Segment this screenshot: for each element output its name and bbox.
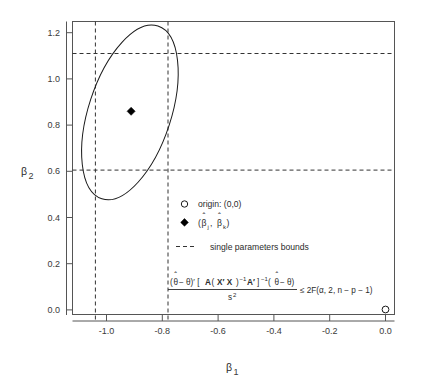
- x-axis-title: β 1: [226, 361, 239, 377]
- formula-denominator: s 2: [228, 292, 237, 303]
- legend-item-origin: origin: (0,0): [181, 199, 241, 209]
- plot-canvas: 0.0 0.2 0.4 0.6 0.8 1.0 1.2 β 2: [0, 0, 421, 387]
- y-tick-label: 1.2: [47, 28, 60, 38]
- legend-label-estimate-beta1: β: [202, 218, 207, 228]
- formula-num-part5: ]: [257, 278, 259, 287]
- formula-denominator-exponent: 2: [233, 292, 237, 298]
- estimate-point: [127, 107, 135, 115]
- x-tick-label: -0.2: [322, 326, 338, 336]
- y-axis: 0.0 0.2 0.4 0.6 0.8 1.0 1.2 β 2: [21, 22, 73, 316]
- y-tick-label: 0.4: [47, 213, 60, 223]
- formula-num-part3: (: [212, 278, 215, 287]
- formula-num-matrix-aprime: A′: [247, 278, 255, 287]
- legend-item-bounds: single parameters bounds: [176, 242, 309, 252]
- formula-num-theta1: θ: [174, 278, 179, 287]
- legend-item-estimate: ( ˆ β j , ˆ β k ): [181, 211, 230, 230]
- legend-label-origin: origin: (0,0): [198, 199, 242, 209]
- x-tick-label: -0.6: [210, 326, 226, 336]
- formula-num-part2: − θ)′ [: [179, 278, 200, 287]
- y-axis-title-subscript: 2: [28, 171, 33, 181]
- open-circle-icon: [181, 201, 187, 207]
- x-axis: -1.0 -0.8 -0.6 -0.4 -0.2 0.0 β 1: [73, 315, 395, 377]
- x-tick-label: -1.0: [99, 326, 115, 336]
- open-circle-marker: [382, 306, 389, 313]
- formula-num-matrix-xx: X′ X: [217, 278, 233, 287]
- y-tick-label: 0.6: [47, 166, 60, 176]
- formula-rhs: ≤ 2F(α, 2, n − p − 1): [300, 286, 373, 295]
- formula-num-part7: − θ): [280, 278, 295, 287]
- y-tick-label: 0.0: [47, 305, 60, 315]
- x-tick-label: -0.4: [266, 326, 282, 336]
- filled-diamond-marker: [127, 107, 135, 115]
- y-tick-label: 0.2: [47, 259, 60, 269]
- formula-num-matrix-a: A: [205, 278, 211, 287]
- y-axis-title: β 2: [21, 165, 34, 181]
- legend: origin: (0,0) ( ˆ β j , ˆ β k ) single p…: [176, 199, 309, 252]
- y-tick-label: 1.0: [47, 74, 60, 84]
- formula-numerator: ( ˆ θ − θ)′ [ A ( X′ X ) −1 A′ ] −1 ( ˆ …: [170, 271, 295, 287]
- legend-label-estimate-beta2: β: [217, 218, 222, 228]
- origin-point: [382, 306, 389, 313]
- legend-label-estimate-comma: ,: [210, 218, 212, 228]
- x-tick-label: -0.8: [155, 326, 171, 336]
- y-tick-label: 0.8: [47, 120, 60, 130]
- formula-num-exponent1: −1: [240, 276, 248, 282]
- plot-frame: [73, 22, 395, 315]
- formula-denominator-s: s: [228, 293, 232, 302]
- filled-diamond-icon: [181, 219, 189, 227]
- confidence-region-figure: 0.0 0.2 0.4 0.6 0.8 1.0 1.2 β 2: [0, 0, 421, 387]
- y-axis-title-text: β: [21, 165, 27, 177]
- legend-label-estimate-sub1: j: [207, 224, 209, 230]
- legend-label-estimate-close-paren: ): [227, 218, 230, 228]
- formula-num-part6: (: [268, 278, 271, 287]
- single-parameter-bounds: [73, 22, 395, 322]
- legend-label-bounds: single parameters bounds: [210, 242, 309, 252]
- x-axis-title-text: β: [226, 361, 232, 373]
- formula-annotation: ( ˆ θ − θ)′ [ A ( X′ X ) −1 A′ ] −1 ( ˆ …: [168, 271, 373, 302]
- x-axis-title-subscript: 1: [233, 367, 238, 377]
- formula-num-theta2: θ: [275, 278, 280, 287]
- x-tick-label: 0.0: [379, 326, 392, 336]
